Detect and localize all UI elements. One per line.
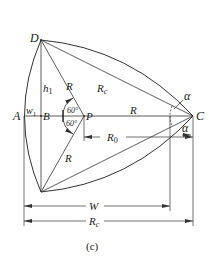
label-angle-lower: 60° — [66, 119, 78, 128]
point-D-dot — [40, 39, 42, 41]
label-R0: R0 — [106, 131, 118, 145]
label-B: B — [43, 110, 50, 122]
label-R-lower: R — [64, 152, 72, 164]
label-Rc-dimension: Rc — [88, 215, 100, 229]
point-B-dot — [40, 115, 42, 117]
label-angle-upper: 60° — [67, 106, 79, 115]
geometry-diagram: D A B P C h1 w1 R R R Rc R0 W Rc 60° 60°… — [0, 0, 215, 261]
label-Rc: Rc — [96, 82, 108, 96]
label-alpha-lower: α — [182, 121, 189, 135]
chord-D-C — [41, 40, 193, 116]
label-W: W — [89, 200, 99, 212]
label-R-horizontal: R — [129, 104, 137, 116]
label-h1: h1 — [43, 82, 53, 96]
label-alpha-upper: α — [184, 89, 191, 103]
label-P: P — [85, 110, 93, 122]
label-A: A — [12, 109, 21, 123]
radius-D-P — [41, 40, 84, 116]
point-P-dot — [83, 115, 85, 117]
label-R-upper: R — [65, 80, 73, 92]
radius-bottom-P — [41, 116, 84, 192]
label-D: D — [29, 31, 39, 45]
figure-caption: (c) — [86, 240, 99, 253]
label-C: C — [196, 109, 205, 123]
